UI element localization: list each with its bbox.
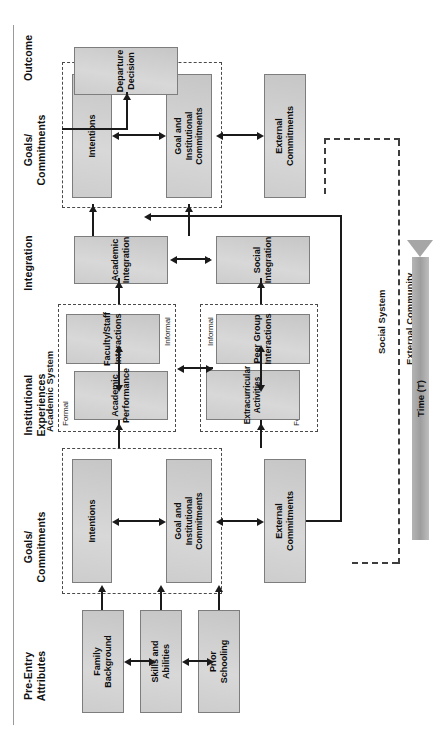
connector-goal-external-2: [222, 134, 258, 136]
box-faculty-staff-interactions-label: Faculty/Staff Interactions: [102, 312, 124, 366]
arrowhead-family-to-intentions: [98, 585, 106, 592]
arrowhead-goal-external-2-down: [257, 132, 264, 140]
arrowhead-prior-to-goals: [215, 585, 223, 592]
arrowhead-integration-up: [170, 256, 177, 264]
box-faculty-staff-interactions: Faculty/Staff Interactions: [66, 314, 160, 364]
time-axis-shaft: Time (T): [412, 257, 429, 540]
time-axis-arrow: Time (T): [407, 240, 433, 540]
connector-goal-external-1: [222, 520, 258, 522]
column-header-pre-entry: Pre-Entry Attributes: [22, 630, 47, 722]
connector-longitudinal-rail: [340, 216, 342, 522]
box-intentions-1-label: Intentions: [87, 500, 98, 543]
group-label-academic-informal: Informal: [163, 317, 172, 346]
column-header-integration: Integration: [22, 208, 35, 318]
column-header-institutional-line1: Institutional: [22, 350, 35, 460]
header-divider-rule: [13, 25, 14, 725]
box-external-commitments-1-label: External Commitments: [274, 491, 296, 551]
arrowhead-intentions-goal-1-up: [112, 518, 119, 526]
arrowhead-intentions-goal-1-down: [159, 518, 166, 526]
column-header-goals-1-line2: Commitments: [35, 492, 48, 602]
arrowhead-skills-prior-up: [182, 658, 189, 666]
connector-goals2-to-departure-riser: [62, 128, 128, 130]
column-header-pre-entry-line1: Pre-Entry: [22, 630, 35, 722]
arrowhead-academic-social-up: [177, 365, 184, 373]
arrowhead-intentions-goal-2-down: [159, 132, 166, 140]
group-label-academic-formal: Formal: [61, 401, 70, 426]
arrowhead-academic-social-down: [206, 365, 213, 373]
column-header-goals-2-line2: Commitments: [35, 95, 48, 205]
arrowhead-family-skills-down: [149, 658, 156, 666]
time-axis-arrowhead: [407, 240, 433, 257]
external-community-boundary-left: [352, 562, 398, 564]
connector-skills-prior: [188, 660, 208, 662]
arrowhead-goal-external-1-up: [216, 518, 223, 526]
external-community-boundary-top-right: [324, 138, 326, 194]
box-goal-institutional-commitments-1-label: Goal and Institutional Commitments: [173, 492, 205, 549]
column-header-integration-line1: Integration: [22, 208, 35, 318]
arrowhead-to-social-integration: [257, 281, 265, 288]
connector-skills-to-goals: [160, 590, 162, 610]
arrowhead-extracurricular-peer-right: [257, 345, 265, 352]
arrowhead-goals2-to-departure: [123, 93, 131, 100]
box-goal-institutional-commitments-1: Goal and Institutional Commitments: [166, 459, 212, 583]
column-header-goals-2: Goals/ Commitments: [22, 95, 47, 205]
box-external-commitments-2-label: External Commitments: [274, 106, 296, 166]
arrowhead-extracurricular-peer-left: [257, 385, 265, 392]
box-departure-decision-label: Departure Decision: [115, 50, 137, 93]
connector-longitudinal-rail-riser-right: [150, 215, 342, 217]
box-peer-group-interactions: Peer Group Interactions: [216, 314, 310, 364]
connector-extracurricular-peer: [260, 347, 262, 387]
box-family-background: Family Background: [82, 610, 124, 713]
box-academic-performance-label: Academic Performance: [110, 368, 132, 423]
arrowhead-skills-to-goals: [157, 585, 165, 592]
box-goal-institutional-commitments-2-label: Goal and Institutional Commitments: [173, 107, 205, 164]
external-community-boundary-bottom: [398, 140, 400, 564]
connector-academic-perf-faculty: [118, 347, 120, 387]
box-social-integration-label: Social Integration: [252, 237, 274, 284]
box-intentions-1: Intentions: [72, 459, 112, 583]
column-header-goals-1-line1: Goals/: [22, 492, 35, 602]
arrowhead-goals1-to-social-system: [257, 423, 265, 430]
box-peer-group-interactions-label: Peer Group Interactions: [252, 313, 274, 364]
box-academic-integration-label: Academic Integration: [110, 237, 132, 284]
connector-family-skills: [130, 660, 150, 662]
connector-longitudinal-rail-riser-left: [306, 520, 342, 522]
box-extracurricular-activities: Extracurricular Activities: [206, 370, 300, 420]
box-departure-decision: Departure Decision: [74, 47, 178, 95]
arrowhead-skills-prior-down: [207, 658, 214, 666]
connector-intentions-goal-1: [118, 520, 160, 522]
connector-prior-to-goals: [218, 590, 220, 610]
box-academic-performance: Academic Performance: [74, 371, 168, 420]
arrowhead-goal-external-2-up: [216, 132, 223, 140]
column-header-outcome: Outcome: [22, 18, 35, 98]
box-family-background-label: Family Background: [92, 635, 114, 688]
box-external-commitments-1: External Commitments: [264, 459, 306, 583]
column-header-pre-entry-line2: Attributes: [35, 630, 48, 722]
arrowhead-integration-down: [205, 256, 212, 264]
column-header-goals-1: Goals/ Commitments: [22, 492, 47, 602]
arrowhead-family-skills-up: [124, 658, 131, 666]
box-social-integration: Social Integration: [216, 236, 310, 284]
arrowhead-goals1-to-academic-system: [115, 423, 123, 430]
group-label-academic-system: Academic System: [44, 351, 55, 432]
box-intentions-2-label: Intentions: [87, 115, 98, 158]
box-academic-integration: Academic Integration: [74, 236, 168, 284]
arrowhead-academic-integration-to-goals2: [89, 205, 97, 212]
arrowhead-longitudinal-rail-up: [144, 213, 151, 221]
arrowhead-goal-external-1-down: [257, 518, 264, 526]
arrowhead-to-academic-integration: [115, 281, 123, 288]
external-community-boundary-right: [324, 138, 400, 140]
box-external-commitments-2: External Commitments: [264, 74, 306, 198]
arrowhead-intentions-goal-2-up: [112, 132, 119, 140]
column-header-outcome-line1: Outcome: [22, 18, 35, 98]
group-label-social-informal: Informal: [206, 317, 215, 346]
connector-intentions-goal-2: [118, 134, 160, 136]
column-header-goals-2-line1: Goals/: [22, 95, 35, 205]
arrowhead-social-integration-to-goals2: [185, 205, 193, 212]
time-axis-label: Time (T): [415, 380, 426, 417]
arrowhead-academic-perf-faculty-left: [115, 385, 123, 392]
arrowhead-academic-perf-faculty-right: [115, 345, 123, 352]
connector-family-to-intentions: [101, 590, 103, 610]
